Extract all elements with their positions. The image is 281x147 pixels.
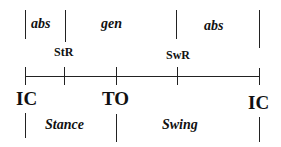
tick-str [64, 67, 65, 85]
phase-divider-ic-top [25, 10, 26, 39]
period-divider-ic-bottom [25, 113, 26, 138]
marker-label-str: StR [54, 46, 73, 58]
event-label-ic-start: IC [16, 89, 37, 108]
marker-label-swr: SwR [166, 49, 190, 61]
timeline-axis [25, 76, 260, 77]
tick-ic-start [25, 67, 26, 85]
tick-swr [177, 67, 178, 85]
phase-divider-ic-end-top [259, 10, 260, 48]
tick-ic-end [259, 68, 260, 85]
event-label-to: TO [102, 89, 129, 108]
period-label-stance: Stance [45, 118, 84, 132]
phase-label-gen: gen [101, 17, 122, 31]
period-divider-ic-end-bottom [259, 117, 260, 142]
phase-label-abs-2: abs [204, 19, 223, 33]
period-divider-to-bottom [116, 114, 117, 142]
event-label-ic-end: IC [248, 93, 269, 112]
phase-divider-str-top [65, 10, 66, 42]
phase-divider-swr-top [176, 10, 177, 39]
phase-label-abs-1: abs [31, 17, 50, 31]
period-label-swing: Swing [162, 118, 198, 132]
gait-cycle-diagram: abs gen abs StR SwR IC TO IC Stance Swin… [0, 0, 281, 147]
tick-to [116, 67, 117, 85]
